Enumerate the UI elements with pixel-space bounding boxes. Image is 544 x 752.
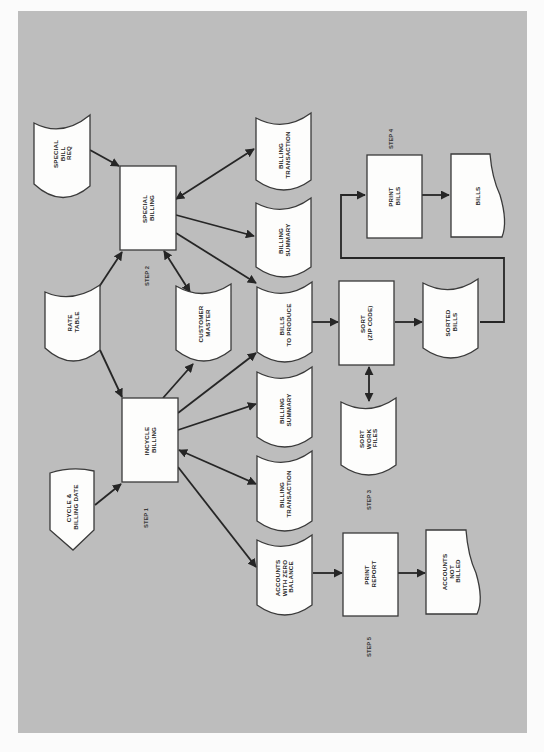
svg-text:SORT WORK FILES: SORT WORK FILES bbox=[358, 427, 378, 449]
node-billing-transaction-step2[interactable]: BILLING TRANSACTION bbox=[256, 113, 311, 190]
svg-text:INCYCLE BILLING: INCYCLE BILLING bbox=[143, 425, 157, 455]
node-special-billing[interactable]: SPECIAL BILLING bbox=[120, 166, 176, 250]
step-label-4: STEP 4 bbox=[388, 128, 394, 149]
svg-text:BILLING SUMMARY: BILLING SUMMARY bbox=[278, 393, 292, 427]
svg-text:PRINT BILLS: PRINT BILLS bbox=[387, 185, 401, 206]
node-print-report[interactable]: PRINT REPORT bbox=[343, 533, 398, 616]
node-incycle-billing[interactable]: INCYCLE BILLING bbox=[122, 398, 178, 482]
node-accounts-zero-balance[interactable]: ACCOUNTS WITH ZERO BALANCE bbox=[257, 535, 312, 615]
svg-text:PRINT REPORT: PRINT REPORT bbox=[363, 560, 377, 587]
svg-text:CUSTOMER MASTER: CUSTOMER MASTER bbox=[197, 304, 211, 343]
node-rate-table[interactable]: RATE TABLE bbox=[45, 285, 100, 361]
step-label-1: STEP 1 bbox=[143, 507, 149, 528]
svg-text:BILLS: BILLS bbox=[474, 187, 481, 206]
svg-text:SPECIAL BILLING: SPECIAL BILLING bbox=[141, 193, 155, 223]
node-billing-transaction-step1[interactable]: BILLING TRANSACTION bbox=[257, 451, 312, 531]
step-label-5: STEP 5 bbox=[366, 636, 372, 657]
step-label-2: STEP 2 bbox=[144, 266, 150, 286]
node-sorted-bills[interactable]: SORTED BILLS bbox=[423, 279, 478, 358]
svg-text:RATE TABLE: RATE TABLE bbox=[66, 311, 80, 332]
node-sort-zip-code[interactable]: SORT (ZIP CODE) bbox=[339, 281, 394, 365]
svg-text:BILLING SUMMARY: BILLING SUMMARY bbox=[277, 223, 291, 257]
svg-text:ACCOUNTS WITH ZERO: ACCOUNTS WITH ZERO BALANCE bbox=[274, 558, 294, 597]
node-sort-work-files[interactable]: SORT WORK FILES bbox=[341, 398, 396, 475]
step-label-3: STEP 3 bbox=[366, 489, 372, 510]
node-billing-summary-step2[interactable]: BILLING SUMMARY bbox=[256, 198, 311, 277]
node-print-bills[interactable]: PRINT BILLS bbox=[367, 155, 422, 238]
node-billing-summary-step1[interactable]: BILLING SUMMARY bbox=[257, 367, 312, 447]
billing-flowchart: SPECIAL BILL REQ RATE TABLE CYCLE & BILL… bbox=[0, 0, 544, 752]
node-customer-master[interactable]: CUSTOMER MASTER bbox=[176, 284, 231, 361]
diagram-background bbox=[18, 11, 527, 733]
node-bills-to-produce[interactable]: BILLS TO PRODUCE bbox=[257, 282, 312, 362]
